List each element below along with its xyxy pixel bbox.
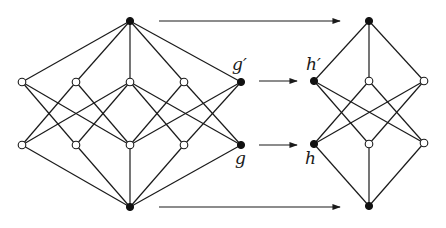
right-lattice-node-n1 (365, 140, 373, 148)
right-lattice-node-m2 (420, 77, 428, 85)
right-lattice-node-bottom (365, 202, 372, 209)
left-lattice-node-u3 (126, 78, 134, 86)
left-lattice-node-gp (237, 78, 244, 85)
left-lattice-edge-top-u4 (130, 21, 184, 82)
label-g-prime: g′ (232, 56, 247, 73)
label-h: h (305, 150, 316, 167)
left-lattice-node-u2 (72, 78, 80, 86)
left-lattice-nodes (18, 17, 244, 210)
right-lattice-node-top (365, 17, 372, 24)
left-lattice-edge-l2-bottom (76, 145, 130, 207)
label-h-prime: h′ (306, 56, 321, 73)
left-lattice-edge-g-bottom (130, 145, 241, 207)
right-lattice-edge-n2-bottom (369, 143, 424, 206)
diagram-canvas (0, 0, 446, 228)
left-lattice-edge-l4-bottom (130, 145, 184, 207)
left-lattice-edge-top-gp (130, 21, 241, 82)
left-lattice-node-u1 (18, 78, 26, 86)
right-lattice-edges (314, 21, 424, 206)
left-lattice-node-l4 (180, 141, 188, 149)
right-lattice-edge-h-bottom (314, 144, 369, 206)
left-lattice-node-bottom (126, 203, 133, 210)
left-lattice-edges (22, 21, 241, 207)
right-lattice-edge-top-m2 (369, 21, 424, 81)
left-lattice-edge-top-u1 (22, 21, 130, 82)
label-g: g (235, 150, 246, 167)
right-lattice-node-n2 (420, 139, 428, 147)
right-lattice-node-m1 (365, 77, 373, 85)
right-lattice-node-h (310, 140, 317, 147)
left-lattice-node-u4 (180, 78, 188, 86)
left-lattice-node-l2 (72, 141, 80, 149)
right-lattice-node-hp (310, 77, 317, 84)
lattice-homomorphism-diagram: g′ g h′ h (0, 0, 446, 228)
left-lattice-edge-l1-bottom (22, 145, 130, 207)
left-lattice-node-top (126, 17, 133, 24)
right-lattice-edge-top-hp (314, 21, 369, 81)
left-lattice-node-l1 (18, 141, 26, 149)
left-lattice-edge-top-u2 (76, 21, 130, 82)
left-lattice-node-l3 (126, 141, 134, 149)
